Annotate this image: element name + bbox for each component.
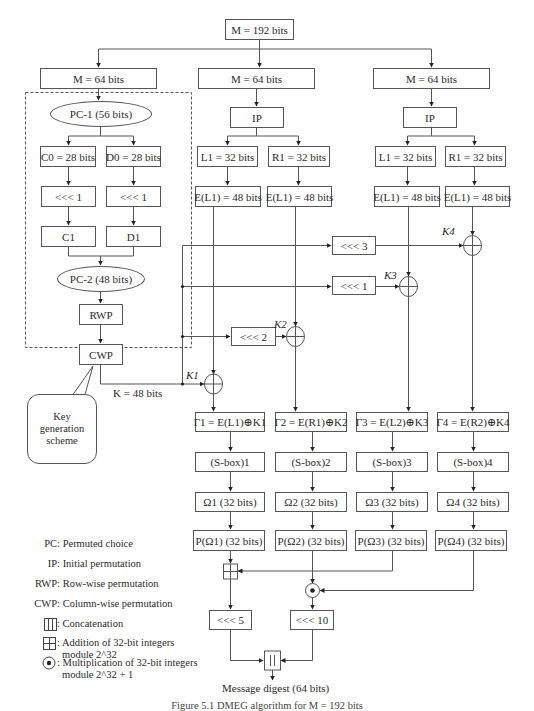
d1-box: D1 (106, 226, 161, 247)
gamma-4-box: Γ4 = E(R2)⊕K4 (437, 412, 509, 432)
xor-k3-icon (400, 277, 418, 297)
legend-ip-text: Initial permutation (63, 558, 141, 569)
middle-r1-box: R1 = 32 bits (268, 146, 330, 167)
c0-box: C0 = 28 bits (40, 146, 96, 167)
sbox-4-label: (S-box)4 (453, 456, 492, 468)
branch-middle-m64-box: M = 64 bits (198, 68, 315, 89)
sbox-4-box: (S-box)4 (437, 452, 509, 472)
figure-caption: Figure 5.1 DMEG algorithm for M = 192 bi… (0, 700, 534, 711)
legend-pc-text: Permuted choice (63, 538, 133, 549)
pc2-label: PC-2 (48 bits) (70, 273, 132, 285)
sbox-1-box: (S-box)1 (195, 452, 265, 472)
legend-mul-icon (43, 657, 55, 669)
pc2-ellipse: PC-2 (48 bits) (57, 266, 145, 292)
omega-2-box: Ω2 (32 bits) (275, 492, 347, 512)
middle-l1-label: L1 = 32 bits (201, 151, 255, 163)
legend-rwp: RWP: Row-wise permutation (26, 578, 159, 590)
sbox-3-label: (S-box)3 (372, 456, 411, 468)
legend-cwp: CWP: Column-wise permutation (26, 598, 173, 610)
middle-r1-label: R1 = 32 bits (272, 151, 326, 163)
omega-4-label: Ω4 (32 bits) (446, 496, 499, 508)
pc1-ellipse: PC-1 (56 bits) (50, 101, 152, 127)
legend-cwp-key: CWP: (26, 598, 60, 610)
k1-label: K1 (186, 369, 199, 381)
omega-2-label: Ω2 (32 bits) (284, 496, 337, 508)
sbox-2-label: (S-box)2 (291, 456, 330, 468)
legend-rwp-key: RWP: (26, 578, 60, 590)
shift-c-label: <<< 1 (55, 191, 82, 203)
d1-label: D1 (127, 231, 140, 243)
perm-1-box: P(Ω1) (32 bits) (193, 530, 265, 551)
legend-cwp-text: Column-wise permutation (63, 598, 173, 609)
middle-el-label: E(L1) = 48 bits (194, 191, 262, 203)
perm-4-label: P(Ω4) (32 bits) (438, 535, 505, 547)
k2-label: K2 (274, 318, 287, 330)
k4-label: K4 (442, 225, 455, 237)
legend-ip-key: IP: (26, 558, 60, 570)
rwp-label: RWP (89, 309, 112, 321)
perm-2-box: P(Ω2) (32 bits) (275, 530, 347, 551)
input-label: M = 192 bits (231, 24, 288, 36)
gamma-3-box: Γ3 = E(L2)⊕K3 (356, 412, 428, 432)
shift-d-label: <<< 1 (120, 191, 147, 203)
branch-left-m64-box: M = 64 bits (40, 68, 157, 89)
right-r1-label: R1 = 32 bits (448, 151, 502, 163)
legend-rwp-text: Row-wise permutation (63, 578, 159, 589)
legend-add-text: : Addition of 32-bit integers (57, 637, 174, 648)
final-shift-left-box: <<< 5 (209, 610, 252, 630)
pc1-label: PC-1 (56 bits) (70, 108, 132, 120)
omega-3-box: Ω3 (32 bits) (356, 492, 428, 512)
branch-right-m64-box: M = 64 bits (373, 68, 490, 89)
perm-4-box: P(Ω4) (32 bits) (435, 530, 507, 551)
gamma-1-label: Γ1 = E(L1)⊕K1 (194, 416, 267, 429)
right-r1-box: R1 = 32 bits (445, 146, 506, 167)
xor-k4-icon (464, 236, 482, 256)
gamma-2-box: Γ2 = E(R1)⊕K2 (275, 412, 347, 432)
legend-concat: : Concatenation (57, 618, 123, 630)
right-ip-box: IP (403, 107, 457, 128)
gamma-3-label: Γ3 = E(L2)⊕K3 (356, 416, 429, 429)
gamma-2-label: Γ2 = E(R1)⊕K2 (274, 416, 347, 429)
right-er-box: E(L1) = 48 bits (445, 186, 510, 207)
right-l1-label: L1 = 32 bits (379, 151, 433, 163)
key-output-label: K = 48 bits (113, 387, 162, 399)
rwp-box: RWP (79, 304, 123, 325)
legend-add-icon (44, 638, 56, 650)
middle-l1-box: L1 = 32 bits (197, 146, 258, 167)
branch-middle-label: M = 64 bits (231, 73, 282, 85)
right-er-label: E(L1) = 48 bits (444, 191, 512, 203)
k2-shift-box: <<< 2 (231, 327, 276, 346)
sbox-2-box: (S-box)2 (275, 452, 347, 472)
legend-ip: IP: Initial permutation (26, 558, 141, 570)
xor-k1-icon (205, 374, 223, 394)
middle-el-box: E(L1) = 48 bits (195, 186, 261, 207)
omega-1-box: Ω1 (32 bits) (195, 492, 265, 512)
middle-er-box: E(L1) = 48 bits (267, 186, 332, 207)
final-shift-left-label: <<< 5 (217, 614, 244, 626)
cwp-box: CWP (79, 344, 123, 365)
legend-mul-text: : Multiplication of 32-bit integers (57, 657, 198, 668)
right-el-label: E(L1) = 48 bits (373, 191, 441, 203)
c1-box: C1 (41, 226, 96, 247)
xor-k2-icon (287, 327, 305, 347)
right-ip-label: IP (425, 112, 435, 124)
branch-right-label: M = 64 bits (406, 73, 457, 85)
key-generation-callout: Key generation scheme (27, 394, 97, 464)
shift-d-box: <<< 1 (106, 186, 161, 207)
k3-label: K3 (384, 269, 397, 281)
k3-shift-label: <<< 1 (341, 280, 368, 292)
legend-mul: : Multiplication of 32-bit integersmodul… (57, 657, 198, 681)
addition-mod-icon (224, 564, 238, 579)
message-digest-label: Message digest (64 bits) (222, 682, 329, 694)
sbox-3-box: (S-box)3 (356, 452, 428, 472)
legend-concat-icon (45, 619, 57, 631)
k2-shift-label: <<< 2 (240, 331, 267, 343)
branch-left-label: M = 64 bits (73, 73, 124, 85)
right-el-box: E(L1) = 48 bits (374, 186, 440, 207)
right-l1-box: L1 = 32 bits (375, 146, 436, 167)
shift-c-box: <<< 1 (41, 186, 96, 207)
final-shift-right-box: <<< 10 (290, 610, 334, 630)
multiplication-mod-icon (306, 584, 320, 598)
perm-1-label: P(Ω1) (32 bits) (196, 535, 263, 547)
middle-er-label: E(L1) = 48 bits (266, 191, 334, 203)
